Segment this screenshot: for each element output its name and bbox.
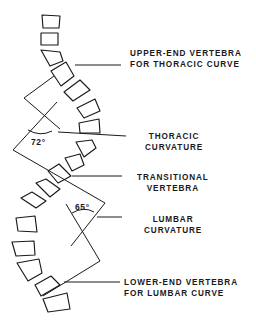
vertebra-12 [21, 192, 46, 208]
vertebra-13 [16, 216, 37, 232]
label-line: TRANSITIONAL [137, 172, 209, 183]
lumbar-angle-value: 65° [75, 202, 90, 212]
label-line: CURVATURE [145, 142, 203, 153]
label-line: FOR LUMBAR CURVE [124, 288, 238, 299]
vertebra-1 [42, 15, 60, 28]
label-lower-end-vertebra: LOWER-END VERTEBRA FOR LUMBAR CURVE [124, 277, 238, 299]
vertebra-5 [64, 80, 90, 101]
label-thoracic-curvature: THORACIC CURVATURE [145, 131, 203, 153]
thoracic-cobb-lines [13, 76, 105, 203]
vertebra-6 [77, 99, 100, 118]
lumbar-perpendicular-2 [66, 204, 100, 261]
label-line: VERTEBRA [137, 183, 209, 194]
upper-endplate-line [24, 76, 54, 98]
label-line: CURVATURE [144, 225, 202, 236]
vertebra-9 [65, 154, 84, 171]
upper-perpendicular [24, 98, 60, 129]
thoracic-angle-arc [28, 130, 52, 134]
lower-end-endplate-line [43, 261, 100, 296]
vertebra-14 [12, 241, 35, 256]
vertebral-column [12, 15, 100, 312]
label-upper-end-vertebra: UPPER-END VERTEBRA FOR THORACIC CURVE [130, 48, 242, 70]
label-line: FOR THORACIC CURVE [130, 59, 242, 70]
vertebra-7 [79, 119, 100, 133]
vertebra-3 [41, 50, 63, 66]
label-lumbar-curvature: LUMBAR CURVATURE [144, 214, 202, 236]
thoracic-angle-value: 72° [31, 137, 46, 147]
vertebra-17 [43, 293, 70, 312]
vertebra-4-upper-end [51, 62, 74, 86]
label-line: UPPER-END VERTEBRA [130, 48, 242, 59]
vertebra-15 [17, 259, 42, 281]
vertebra-10-transitional [48, 164, 71, 183]
vertebra-2 [41, 33, 58, 45]
label-line: THORACIC [145, 131, 203, 142]
label-line: LUMBAR [144, 214, 202, 225]
label-line: LOWER-END VERTEBRA [124, 277, 238, 288]
label-transitional-vertebra: TRANSITIONAL VERTEBRA [137, 172, 209, 194]
